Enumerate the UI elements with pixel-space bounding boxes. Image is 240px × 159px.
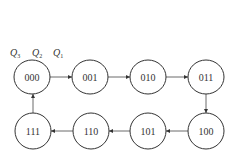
state-110: 110 (73, 113, 109, 149)
transitions (33, 77, 206, 131)
state-011: 011 (188, 60, 224, 94)
state-100: 100 (188, 113, 224, 149)
state-label: 111 (26, 126, 40, 137)
bit-label-q2: Q2 (32, 47, 42, 59)
state-diagram: Q3 Q2 Q1 000 001 010 011 100 101 (0, 0, 240, 159)
state-111: 111 (15, 113, 51, 149)
bit-labels: Q3 Q2 Q1 (10, 47, 63, 59)
state-label: 011 (199, 72, 214, 83)
state-label: 110 (84, 126, 99, 137)
state-label: 100 (199, 126, 214, 137)
bit-label-q1: Q1 (53, 47, 63, 59)
bit-label-q3: Q3 (10, 47, 20, 59)
state-label: 101 (141, 126, 156, 137)
state-label: 000 (25, 72, 40, 83)
state-010: 010 (130, 60, 166, 94)
state-label: 010 (141, 72, 156, 83)
state-001: 001 (72, 60, 108, 94)
state-000: 000 (14, 60, 50, 94)
state-label: 001 (83, 72, 98, 83)
state-101: 101 (130, 113, 166, 149)
